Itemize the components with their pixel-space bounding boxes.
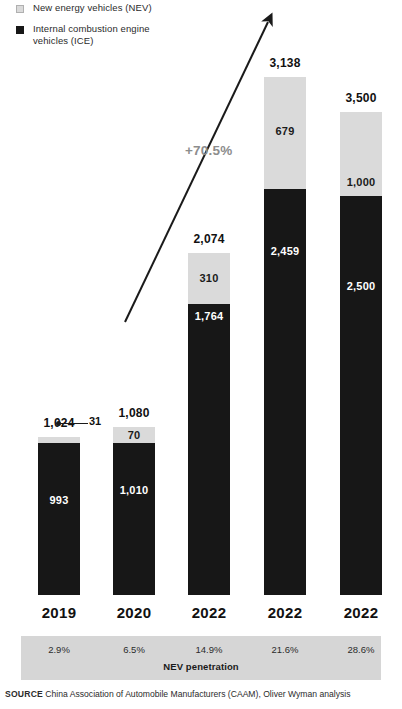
penetration-value-0: 2.9% <box>38 644 80 655</box>
x-axis-label-2: 2022 <box>188 604 230 621</box>
source-line: SOURCE China Association of Automobile M… <box>5 689 399 699</box>
source-text: China Association of Automobile Manufact… <box>45 689 350 699</box>
penetration-value-3: 21.6% <box>264 644 306 655</box>
bar-segment-ice-2022-c: 2,500 <box>340 196 382 595</box>
nev-ice-stacked-bar-chart: New energy vehicles (NEV) Internal combu… <box>0 0 402 709</box>
bar-value-nev-2022-a: 310 <box>188 272 230 284</box>
bar-segment-nev-2020: 70 <box>113 427 155 443</box>
bar-segment-nev-2022-a: 310 <box>188 253 230 304</box>
nev-penetration-band: 2.9% 6.5% 14.9% 21.6% 28.6% NEV penetrat… <box>21 636 381 680</box>
callout-leader-line <box>59 423 88 425</box>
bar-value-ice-2022-c: 2,500 <box>340 280 382 292</box>
bar-segment-nev-2022-b: 679 <box>264 77 306 189</box>
bar-group-2022-a: 2,074 310 1,764 <box>188 253 230 595</box>
bar-value-nev-2022-b: 679 <box>264 125 306 137</box>
bar-segment-ice-2022-a: 1,764 <box>188 304 230 595</box>
bar-value-ice-2022-b: 2,459 <box>264 245 306 257</box>
bar-group-2019: 1,024 993 <box>38 437 80 595</box>
bar-total-2022-b: 3,138 <box>264 56 306 70</box>
bar-segment-ice-2020: 1,010 <box>113 443 155 595</box>
penetration-value-2: 14.9% <box>188 644 230 655</box>
bar-value-ice-2022-a: 1,764 <box>188 310 230 322</box>
penetration-caption: NEV penetration <box>21 661 381 672</box>
x-axis-label-3: 2022 <box>264 604 306 621</box>
bar-value-ice-2020: 1,010 <box>113 484 155 496</box>
plot-area: 1,024 993 31 1,080 70 1,010 2,074 <box>0 0 402 709</box>
penetration-value-4: 28.6% <box>340 644 382 655</box>
bar-group-2020: 1,080 70 1,010 <box>113 427 155 595</box>
bar-segment-ice-2022-b: 2,459 <box>264 189 306 595</box>
bar-segment-nev-2022-c: 1,000 <box>340 112 382 196</box>
bar-group-2022-b: 3,138 679 2,459 <box>264 77 306 595</box>
bar-value-nev-2020: 70 <box>113 429 155 441</box>
bar-value-nev-2022-c: 1,000 <box>340 176 382 188</box>
bar-group-2022-c: 3,500 1,000 2,500 <box>340 112 382 595</box>
x-axis-label-1: 2020 <box>113 604 155 621</box>
penetration-value-1: 6.5% <box>113 644 155 655</box>
x-axis-label-4: 2022 <box>340 604 382 621</box>
callout-value-label: 31 <box>89 415 101 427</box>
bar-value-ice-2019: 993 <box>38 494 80 506</box>
bar-total-2020: 1,080 <box>113 406 155 420</box>
x-axis-label-0: 2019 <box>38 604 80 621</box>
source-prefix: SOURCE <box>5 689 43 699</box>
bar-segment-ice-2019: 993 <box>38 443 80 595</box>
bar-total-2022-a: 2,074 <box>188 232 230 246</box>
bar-total-2022-c: 3,500 <box>340 91 382 105</box>
growth-percentage-label: +70.5% <box>185 143 232 158</box>
